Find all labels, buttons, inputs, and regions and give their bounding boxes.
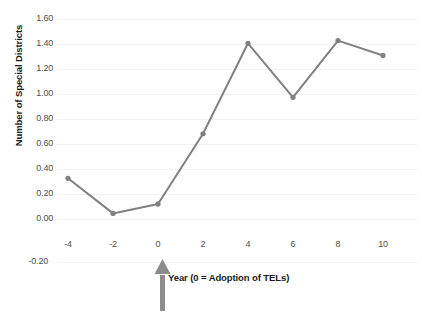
data-point xyxy=(380,53,385,58)
data-point xyxy=(335,38,340,43)
data-point xyxy=(245,41,250,46)
data-point xyxy=(155,201,160,206)
data-point xyxy=(200,131,205,136)
line-chart: 1.60 1.40 1.20 1.00 0.80 0.60 0.40 0.20 … xyxy=(0,0,422,313)
series-polyline xyxy=(68,41,383,214)
data-point xyxy=(65,176,70,181)
data-point xyxy=(290,95,295,100)
series-line xyxy=(0,0,422,313)
data-point xyxy=(110,211,115,216)
series-markers xyxy=(65,38,385,216)
x-axis-title: Year (0 = Adoption of TELs) xyxy=(168,272,289,283)
y-axis-title: Number of Special Districts xyxy=(13,0,24,186)
adoption-year-arrow-icon xyxy=(155,259,171,311)
